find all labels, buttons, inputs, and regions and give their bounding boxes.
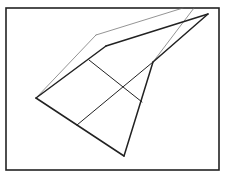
bottom-to-crease: [124, 62, 153, 156]
thin-crease-to-top: [153, 8, 194, 62]
left-to-bottom: [36, 98, 124, 156]
figure-outline: [36, 14, 208, 156]
crease-to-top-right: [153, 14, 208, 62]
left-to-bend: [36, 46, 106, 98]
thin-guide-lines: [36, 8, 194, 98]
thin-left-to-bend: [36, 35, 96, 98]
cross-line-b: [77, 62, 153, 125]
cross-line-a: [89, 60, 142, 102]
diagram-canvas: [0, 0, 225, 175]
bend-to-top-right: [106, 14, 208, 46]
thin-bend-to-top: [96, 8, 183, 35]
cross-fold-lines: [77, 60, 153, 125]
